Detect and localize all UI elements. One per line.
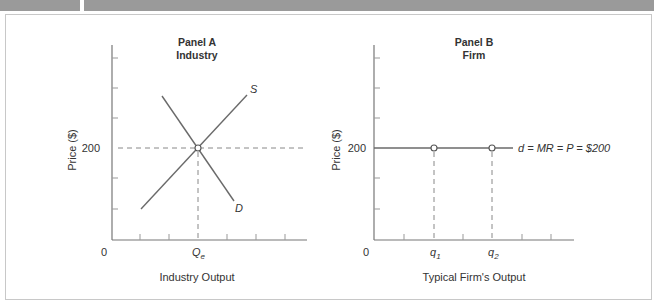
panel-a-y-ticks	[112, 58, 118, 209]
q1-point	[431, 145, 437, 151]
panel-a: Panel A Industry S D 200	[66, 36, 307, 283]
panel-b: Panel B Firm d = MR = P = $200 200 0 q1 …	[330, 36, 611, 283]
panel-b-x-ticks	[404, 234, 551, 240]
firm-demand-label: d = MR = P = $200	[518, 142, 611, 154]
panel-a-y-label: Price ($)	[66, 129, 78, 171]
supply-label: S	[250, 83, 258, 95]
panel-a-title-1: Panel A	[178, 36, 217, 48]
panel-a-origin: 0	[101, 246, 107, 258]
panel-b-title-2: Firm	[463, 49, 486, 61]
q1-label: q1	[430, 246, 441, 261]
figure-canvas: Panel A Industry S D 200	[0, 0, 658, 302]
panel-b-x-label: Typical Firm's Output	[423, 271, 526, 283]
demand-label: D	[235, 202, 243, 214]
q2-point	[489, 145, 495, 151]
panel-a-qe-label: Qe	[192, 246, 206, 261]
panel-b-origin: 0	[363, 246, 369, 258]
panel-b-y-label: Price ($)	[330, 129, 342, 171]
panel-a-price-tick: 200	[82, 142, 100, 154]
panel-b-price-tick: 200	[348, 142, 366, 154]
equilibrium-point	[195, 145, 201, 151]
panel-a-x-ticks	[140, 234, 285, 240]
panel-b-y-ticks	[374, 58, 380, 209]
panel-b-title-1: Panel B	[455, 36, 494, 48]
q2-label: q2	[488, 246, 499, 261]
panel-a-x-label: Industry Output	[159, 271, 234, 283]
panel-a-title-2: Industry	[176, 49, 218, 61]
supply-curve	[141, 95, 247, 209]
